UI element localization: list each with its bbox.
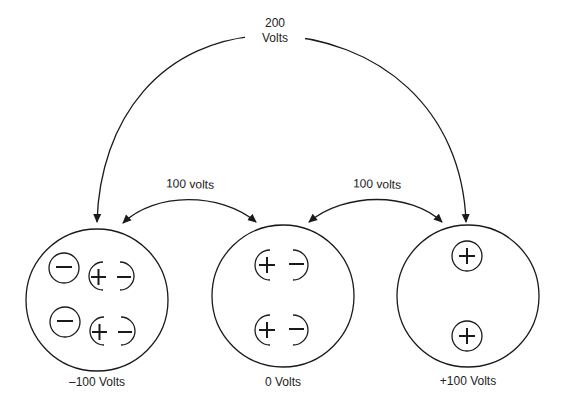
- diagram-canvas: [0, 0, 567, 408]
- caption-negative-100-volts: –100 Volts: [47, 375, 147, 390]
- label-200-value: 200: [245, 16, 305, 31]
- free-negative-charge-icon: [50, 307, 80, 337]
- caption-positive-100-volts: +100 Volts: [418, 374, 518, 389]
- plate-positive-100: [397, 225, 539, 367]
- caption-zero-volts: 0 Volts: [233, 375, 333, 390]
- free-positive-charge-icon: [452, 241, 482, 271]
- label-left-100-volts: 100 volts: [150, 176, 230, 194]
- dipole-charge-icon: [90, 317, 135, 345]
- label-200-volts: 200 Volts: [245, 16, 305, 46]
- dipole-charge-icon: [255, 315, 308, 345]
- arc-200-volts-arrow: [97, 35, 466, 222]
- dipole-charge-icon: [89, 262, 134, 290]
- arc-right-100-volts-arrow: [309, 200, 442, 223]
- plate-negative-100: [26, 229, 168, 371]
- label-right-100-volts: 100 volts: [337, 176, 417, 194]
- label-200-unit: Volts: [245, 31, 305, 46]
- free-negative-charge-icon: [49, 253, 79, 283]
- plate-zero: [212, 225, 354, 367]
- free-positive-charge-icon: [452, 321, 482, 351]
- arc-left-100-volts-arrow: [123, 200, 256, 223]
- dipole-charge-icon: [255, 250, 308, 280]
